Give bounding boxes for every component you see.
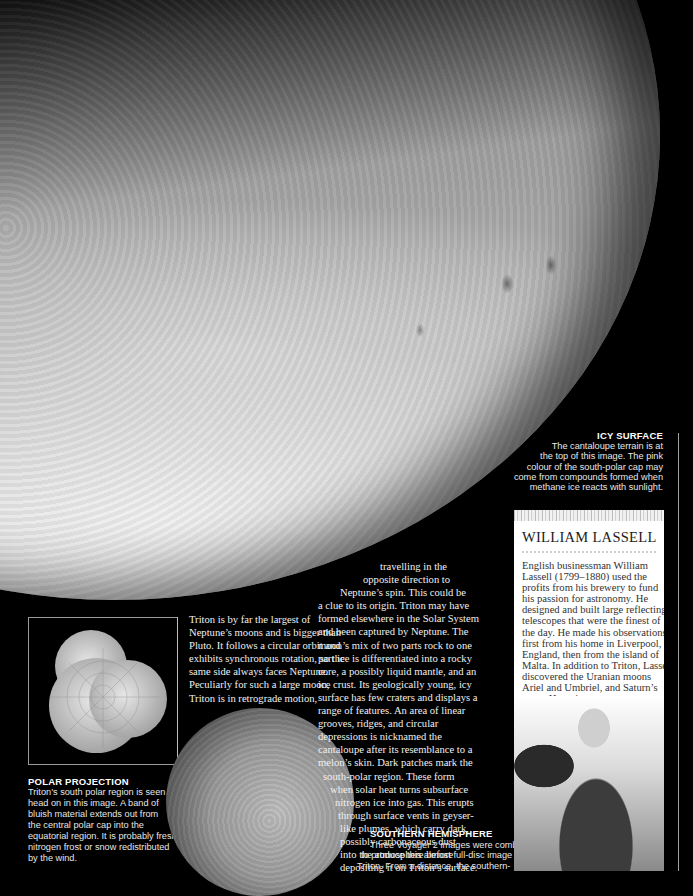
body-line: Triton is in retrograde motion,: [189, 692, 339, 705]
polar-projection-photo: [28, 617, 178, 765]
caption-line: bluish material extends out from: [28, 809, 178, 820]
lassell-line: Malta. In addition to Triton, Lassell: [522, 660, 658, 671]
polar-grid-icon: [29, 618, 177, 764]
caption-line: Three Voyager 2 images were combined: [357, 840, 517, 851]
body-line: grooves, ridges, and circular: [318, 717, 493, 730]
caption-line: The cantaloupe terrain is at: [498, 441, 663, 451]
body-line: moon’s mix of two parts rock to one: [318, 639, 493, 652]
caption-line: equatorial region. It is probably fresh: [28, 831, 178, 842]
lassell-line: designed and built large reflecting: [522, 604, 658, 615]
caption-line: Triton. From a distance, the southern-: [357, 861, 517, 872]
body-line: ice crust. Its geologically young, icy: [318, 678, 493, 691]
lassell-line: the day. He made his observations: [522, 627, 658, 638]
caption-line: to produce this almost full-disc image o…: [357, 850, 517, 861]
lassell-line: Lassell (1799–1880) used the: [522, 571, 658, 582]
icy-surface-caption: ICY SURFACE The cantaloupe terrain is at…: [498, 431, 663, 492]
caption-line: head on in this image. A band of: [28, 798, 178, 809]
body-line: part ice is differentiated into a rocky: [318, 652, 493, 665]
lassell-line: first from his home in Liverpool,: [522, 638, 658, 649]
body-line: formed elsewhere in the Solar System: [318, 612, 493, 625]
body-line: through surface vents in geyser-: [318, 809, 493, 822]
caption-line: the top of this image. The pink: [498, 451, 663, 461]
body-line: and been captured by Neptune. The: [318, 625, 493, 638]
lassell-line: Ariel and Umbriel, and Saturn’s: [522, 682, 658, 693]
column-divider: [678, 433, 679, 871]
william-lassell-portrait: [514, 696, 664, 871]
caption-line: Triton’s south polar region is seen: [28, 787, 178, 798]
caption-line: colour of the south-polar cap may: [498, 462, 663, 472]
body-line: when solar heat turns subsurface: [318, 783, 493, 796]
caption-line: come from compounds formed when: [498, 472, 663, 482]
body-line: depressions is nicknamed the: [318, 730, 493, 743]
body-line: cantaloupe after its resemblance to a: [318, 743, 493, 756]
lassell-line: profits from his brewery to fund: [522, 582, 658, 593]
body-line: south-polar region. These form: [318, 770, 493, 783]
body-line: same side always faces Neptune.: [189, 665, 339, 678]
body-line: Peculiarly for such a large moon,: [189, 678, 339, 691]
body-line: range of features. An area of linear: [318, 704, 493, 717]
decorative-stripe: [514, 510, 664, 521]
body-line: a clue to its origin. Triton may have: [318, 599, 493, 612]
body-line: Triton is by far the largest of: [189, 613, 339, 626]
body-line: opposite direction to: [318, 573, 493, 586]
lassell-line: his passion for astronomy. He: [522, 593, 658, 604]
lassell-line: English businessman William: [522, 560, 658, 571]
body-line: surface has few craters and displays a: [318, 691, 493, 704]
caption-line: nitrogen frost or snow redistributed: [28, 842, 178, 853]
body-line: travelling in the: [318, 560, 493, 573]
body-line: exhibits synchronous rotation, so the: [189, 652, 339, 665]
caption-line: by the wind.: [28, 853, 178, 864]
southern-hemisphere-caption-title: SOUTHERN HEMISPHERE: [357, 829, 517, 840]
icy-surface-caption-title: ICY SURFACE: [498, 431, 663, 441]
body-line: Pluto. It follows a circular orbit and: [189, 639, 339, 652]
polar-projection-caption: POLAR PROJECTION Triton’s south polar re…: [28, 776, 178, 864]
lassell-title: WILLIAM LASSELL: [514, 521, 664, 551]
lassell-line: discovered the Uranian moons: [522, 671, 658, 682]
body-text-left: Triton is by far the largest of Neptune’…: [189, 613, 339, 705]
southern-hemisphere-caption: SOUTHERN HEMISPHERE Three Voyager 2 imag…: [357, 829, 517, 871]
lassell-line: telescopes that were the finest of: [522, 615, 658, 626]
body-line: nitrogen ice into gas. This erupts: [318, 796, 493, 809]
lassell-line: England, then from the island of: [522, 649, 658, 660]
lassell-text: English businessman William Lassell (179…: [514, 553, 664, 704]
body-line: core, a possibly liquid mantle, and an: [318, 665, 493, 678]
william-lassell-panel: WILLIAM LASSELL English businessman Will…: [514, 510, 664, 871]
body-line: melon’s skin. Dark patches mark the: [318, 756, 493, 769]
caption-line: the central polar cap into the: [28, 820, 178, 831]
body-line: Neptune’s moons and is bigger than: [189, 626, 339, 639]
body-line: Neptune’s spin. This could be: [318, 586, 493, 599]
caption-line: methane ice reacts with sunlight.: [498, 482, 663, 492]
polar-projection-caption-title: POLAR PROJECTION: [28, 776, 178, 787]
